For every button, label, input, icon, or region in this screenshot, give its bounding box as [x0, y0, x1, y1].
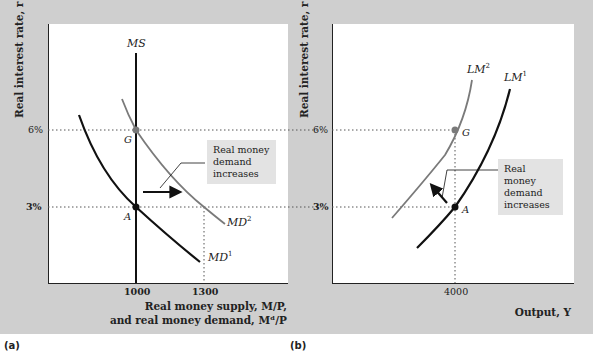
panel-a-xtick-1000: 1000	[124, 286, 150, 297]
point-g-b	[452, 127, 459, 134]
md1-curve	[79, 115, 200, 262]
callout-a: Real money demand increases	[207, 140, 276, 184]
x-axis-label-line1: Real money supply, M/P,	[110, 299, 287, 313]
panel-b-ytick-6: 6%	[313, 124, 328, 135]
y-axis-label-text: Real interest rate, r	[13, 2, 25, 118]
panel-b-y-axis-label: Real interest rate, r	[298, 2, 310, 118]
callout-a-line2: demand	[213, 156, 270, 168]
panel-b-x-axis-label: Output, Y	[515, 305, 571, 319]
lm2-text: LM	[467, 63, 486, 76]
callout-a-line1: Real money	[213, 144, 270, 156]
y-axis-label-text-b: Real interest rate, r	[298, 2, 310, 118]
label-point-a-a: A	[124, 211, 131, 222]
panel-a-ytick-3: 3%	[26, 201, 42, 212]
md1-sup: 1	[228, 250, 232, 258]
panel-a-x-axis-label: Real money supply, M/P, and real money d…	[110, 299, 287, 327]
lm1-sup: 1	[523, 70, 527, 78]
callout-a-line3: increases	[213, 168, 270, 180]
lm2-curve	[392, 80, 472, 218]
lm2-sup: 2	[486, 62, 490, 70]
point-g-a	[133, 127, 140, 134]
panel-b-tag: (b)	[290, 340, 306, 351]
callout-b-line2: demand	[504, 187, 557, 199]
label-lm1: LM1	[504, 70, 527, 84]
panel-a-y-axis-label: Real interest rate, r	[13, 2, 25, 118]
panel-a-ytick-6: 6%	[28, 124, 43, 135]
callout-b-line1: Real money	[504, 163, 557, 187]
point-a-b	[452, 204, 459, 211]
panel-b-ytick-3: 3%	[313, 201, 329, 212]
callout-b: Real money demand increases	[498, 159, 563, 215]
label-md2: MD2	[227, 215, 252, 229]
md1-text: MD	[208, 251, 228, 264]
label-ms: MS	[127, 37, 146, 50]
callout-b-line3: increases	[504, 199, 557, 211]
lm1-text: LM	[504, 71, 523, 84]
label-lm2: LM2	[467, 62, 490, 76]
md2-sup: 2	[247, 215, 251, 223]
panel-a-tag: (a)	[4, 340, 20, 351]
shift-up-left-arrow	[434, 188, 447, 203]
label-point-a-b: A	[462, 204, 469, 215]
md2-text: MD	[227, 216, 247, 229]
label-point-g-a: G	[124, 134, 132, 145]
panel-b-xtick-4000: 4000	[444, 286, 468, 297]
x-axis-label-line2: and real money demand, Mᵈ/P	[110, 313, 287, 327]
label-point-g-b: G	[462, 127, 470, 138]
callout-a-leader	[160, 163, 205, 188]
label-md1: MD1	[208, 250, 233, 264]
point-a-a	[133, 204, 140, 211]
panel-a-xtick-1300: 1300	[192, 286, 218, 297]
